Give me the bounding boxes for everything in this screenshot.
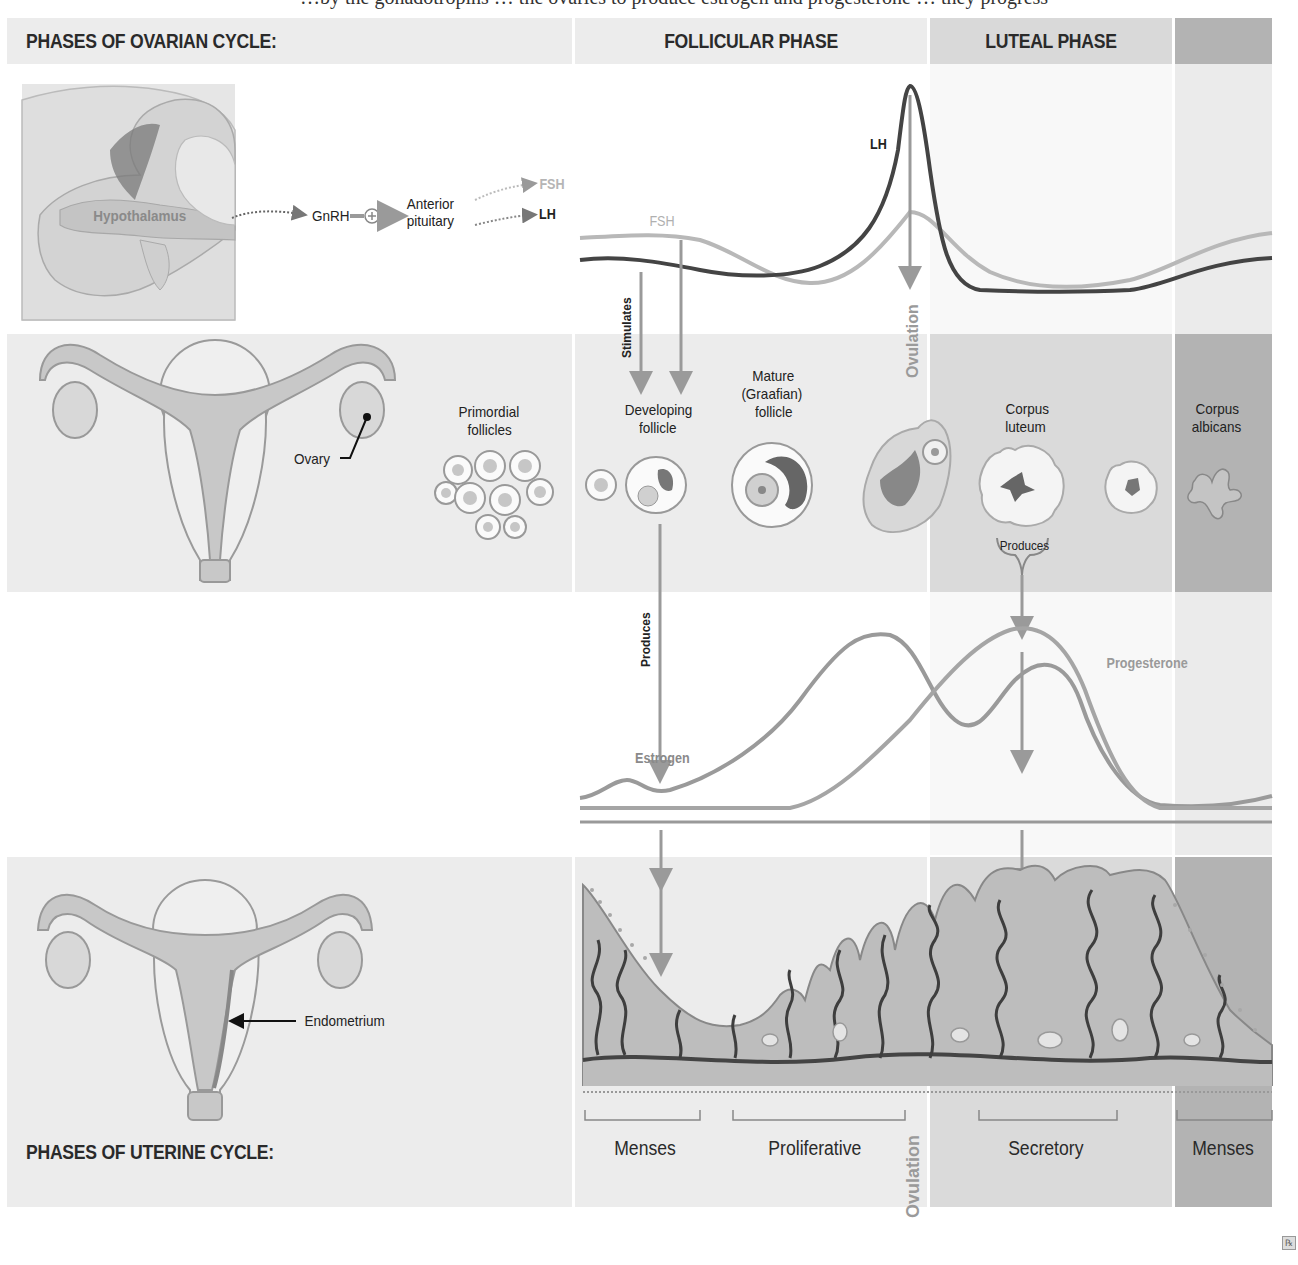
ovary-label: Ovary bbox=[294, 451, 330, 467]
developing-follicle-label-2: follicle bbox=[639, 420, 677, 436]
rx-watermark-icon: ℞ bbox=[1282, 1236, 1296, 1250]
hypothalamus-to-gnrh-arrow bbox=[232, 211, 300, 218]
brain-illustration bbox=[22, 84, 235, 321]
mature-follicle-label-3: follicle bbox=[755, 404, 793, 420]
estrogen-label: Estrogen bbox=[635, 750, 690, 766]
uterus-illustration-uterine-row bbox=[38, 880, 372, 1120]
corpus-luteum-label-1: Corpus bbox=[1005, 401, 1049, 417]
pituitary-to-lh-arrow bbox=[475, 215, 530, 225]
phase-menses-2: Menses bbox=[1192, 1140, 1254, 1156]
phase-secretory: Secretory bbox=[1008, 1140, 1083, 1156]
phase-brackets bbox=[585, 1110, 1272, 1120]
progesterone-label: Progesterone bbox=[1107, 655, 1188, 671]
lh-curve-label: LH bbox=[870, 136, 887, 152]
developing-follicle-icon bbox=[586, 457, 686, 513]
mature-follicle-label-1: Mature bbox=[752, 368, 794, 384]
hypothalamus-label: Hypothalamus bbox=[93, 208, 186, 224]
uterine-cycle-title: PHASES OF UTERINE CYCLE: bbox=[26, 1141, 274, 1164]
ovulation-label-top: Ovulation bbox=[905, 304, 921, 378]
corpus-luteum-label-2: luteum bbox=[1005, 419, 1046, 435]
anterior-pituitary-label-2: pituitary bbox=[407, 213, 454, 229]
corpus-albicans-label-2: albicans bbox=[1192, 419, 1242, 435]
ruptured-follicle-icon bbox=[864, 420, 951, 532]
pituitary-to-fsh-arrow bbox=[475, 184, 530, 200]
mature-follicle-label-2: (Graafian) bbox=[741, 386, 802, 402]
uterus-illustration-ovary-row bbox=[40, 340, 395, 582]
mature-follicle-icon bbox=[732, 443, 812, 527]
primordial-follicles-label-1: Primordial bbox=[458, 404, 519, 420]
endometrium-tissue bbox=[583, 866, 1272, 1086]
stimulates-label: Stimulates bbox=[619, 297, 635, 358]
developing-follicle-label-1: Developing bbox=[625, 402, 693, 418]
ovulation-label-bottom: Ovulation bbox=[905, 1135, 921, 1218]
lh-curve bbox=[580, 86, 1272, 292]
corpus-luteum-icon bbox=[980, 446, 1157, 526]
endometrium-label: Endometrium bbox=[304, 1013, 384, 1029]
gnrh-label: GnRH bbox=[312, 208, 350, 224]
fsh-curve-label: FSH bbox=[649, 213, 674, 229]
produces-luteum-label: Produces bbox=[1000, 538, 1049, 554]
corpus-albicans-label-1: Corpus bbox=[1195, 401, 1239, 417]
produces-follicle-label: Produces bbox=[638, 612, 654, 667]
primordial-follicles-label-2: follicles bbox=[467, 422, 511, 438]
phase-menses-1: Menses bbox=[614, 1140, 676, 1156]
lh-output-label: LH bbox=[539, 206, 556, 222]
fsh-curve bbox=[580, 212, 1272, 287]
fsh-output-label: FSH bbox=[539, 176, 564, 192]
anterior-pituitary-label-1: Anterior bbox=[407, 196, 454, 212]
corpus-albicans-icon bbox=[1188, 469, 1241, 518]
phase-proliferative: Proliferative bbox=[768, 1140, 861, 1156]
